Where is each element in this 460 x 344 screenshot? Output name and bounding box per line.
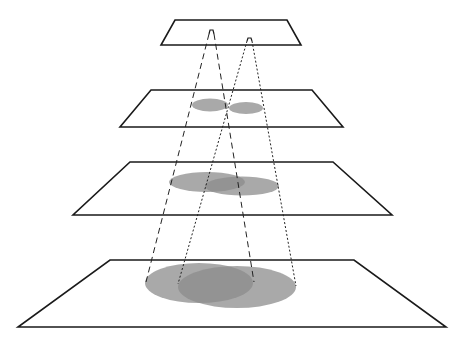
- footprint-b-plane-3-ellipse: [205, 177, 279, 196]
- source-b-point-icon: [247, 38, 252, 41]
- footprint-b-plane-4-ellipse: [178, 266, 296, 308]
- sources-layer: [209, 30, 252, 41]
- stacked-planes-diagram: [0, 0, 460, 344]
- source-a-point-icon: [209, 30, 214, 34]
- footprint-a-plane-2-ellipse: [192, 99, 228, 112]
- footprints-layer: [145, 99, 296, 309]
- cone-a-left-edge: [146, 34, 209, 282]
- plane-1: [161, 20, 301, 45]
- diagram-canvas: [0, 0, 460, 344]
- cones-layer: [146, 34, 296, 286]
- cone-a-right-edge: [214, 34, 254, 282]
- footprint-b-plane-2-ellipse: [229, 102, 263, 114]
- cone-b-right-edge: [252, 41, 296, 286]
